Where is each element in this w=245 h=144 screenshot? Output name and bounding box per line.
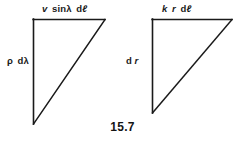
left-top-label-part-v: v bbox=[42, 3, 47, 14]
left-triangle-top-label: vsinλdℓ bbox=[42, 4, 87, 14]
right-side-label-part-r: r bbox=[135, 55, 139, 66]
right-top-label-part-r: r bbox=[172, 3, 176, 14]
left-triangle-side-label: ρdλ bbox=[7, 56, 29, 66]
figure-caption: 15.7 bbox=[0, 120, 245, 134]
right-triangle-side-label: dr bbox=[126, 56, 138, 66]
left-top-label-part-ell: ℓ bbox=[82, 3, 87, 14]
left-side-label-part-lambda: λ bbox=[24, 55, 29, 66]
right-side-label-part-d: d bbox=[126, 55, 132, 66]
right-top-label-part-k: k bbox=[162, 3, 167, 14]
left-triangle-shape bbox=[33, 19, 105, 124]
right-top-label-part-ell: ℓ bbox=[186, 3, 191, 14]
left-side-label-part-rho: ρ bbox=[7, 55, 13, 66]
left-top-label-part-sin: sin bbox=[52, 3, 66, 14]
right-triangle-shape bbox=[152, 19, 232, 113]
left-triangle-hypotenuse bbox=[34, 20, 106, 125]
figure-container: vsinλdℓ ρdλ krdℓ dr 15.7 bbox=[0, 0, 245, 144]
right-triangle-top-label: krdℓ bbox=[162, 4, 192, 14]
right-triangle-hypotenuse bbox=[153, 20, 233, 114]
left-top-label-part-lambda: λ bbox=[66, 3, 71, 14]
